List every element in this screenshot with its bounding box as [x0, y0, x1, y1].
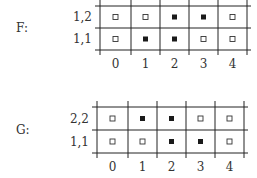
filled-cell-marker	[140, 116, 145, 121]
column-label: 2	[171, 57, 179, 71]
column-label: 3	[197, 160, 205, 174]
empty-cell-marker	[198, 116, 203, 121]
empty-cell-marker	[230, 15, 235, 20]
filled-cell-marker	[172, 15, 177, 20]
column-label: 3	[200, 57, 208, 71]
filled-cell-marker	[198, 139, 203, 144]
row-label: 1,1	[70, 135, 89, 149]
grid-f: F:1,21,101234	[16, 0, 251, 71]
diagram-label: F:	[16, 21, 28, 35]
row-label: 2,2	[70, 112, 89, 126]
column-label: 4	[226, 160, 234, 174]
filled-cell-marker	[169, 116, 174, 121]
filled-cell-marker	[201, 15, 206, 20]
filled-cell-marker	[143, 37, 148, 42]
diagram-label: G:	[16, 123, 30, 137]
empty-cell-marker	[143, 15, 148, 20]
empty-cell-marker	[113, 37, 118, 42]
column-label: 2	[168, 160, 176, 174]
row-label: 1,2	[73, 10, 92, 24]
column-label: 1	[139, 160, 147, 174]
empty-cell-marker	[227, 139, 232, 144]
column-label: 0	[112, 57, 120, 71]
filled-cell-marker	[172, 37, 177, 42]
column-label: 4	[229, 57, 237, 71]
diagram-canvas: F:1,21,101234G:2,21,101234	[0, 0, 257, 178]
empty-cell-marker	[201, 37, 206, 42]
empty-cell-marker	[227, 116, 232, 121]
empty-cell-marker	[110, 139, 115, 144]
empty-cell-marker	[230, 37, 235, 42]
column-label: 0	[109, 160, 117, 174]
filled-cell-marker	[169, 139, 174, 144]
empty-cell-marker	[113, 15, 118, 20]
empty-cell-marker	[140, 139, 145, 144]
row-label: 1,1	[73, 32, 92, 46]
grid-g: G:2,21,101234	[16, 101, 248, 174]
empty-cell-marker	[110, 116, 115, 121]
column-label: 1	[142, 57, 150, 71]
